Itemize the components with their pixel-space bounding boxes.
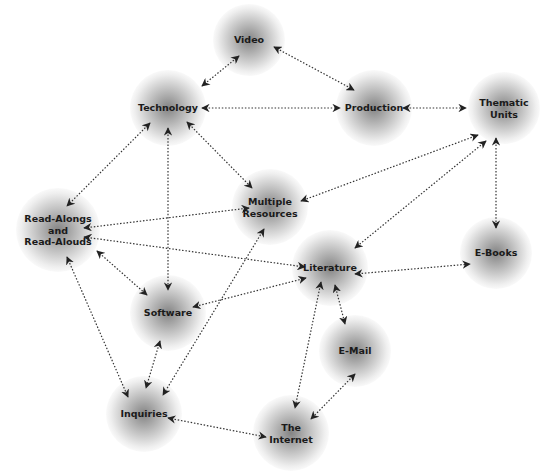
edge-arrow: [84, 237, 305, 267]
edge-arrow: [146, 341, 160, 388]
edge-arrow: [355, 264, 470, 274]
edge-arrow: [335, 285, 345, 324]
edge-arrow: [355, 141, 486, 248]
edge-arrow: [97, 251, 147, 295]
node-ebooks: E-Books: [475, 247, 518, 259]
node-inquiries: Inquiries: [120, 408, 167, 420]
node-thematic: ThematicUnits: [479, 97, 528, 120]
edge-arrow: [301, 135, 478, 201]
node-video: Video: [234, 34, 264, 46]
edge-arrow: [311, 374, 355, 419]
edge-arrow: [187, 122, 252, 188]
edge-arrow: [274, 47, 354, 90]
edge-arrow: [67, 257, 128, 397]
edge-arrow: [295, 282, 321, 408]
node-internet: TheInternet: [269, 422, 313, 445]
edge-arrow: [84, 208, 249, 228]
node-email: E-Mail: [339, 345, 372, 357]
node-literature: Literature: [303, 262, 357, 274]
node-software: Software: [144, 307, 192, 319]
edge-arrow: [202, 56, 239, 86]
node-multiple: MultipleResources: [242, 196, 297, 219]
node-technology: Technology: [138, 102, 198, 114]
edge-arrow: [193, 278, 306, 307]
node-production: Production: [345, 102, 403, 114]
node-readalongs: Read-AlongsandRead-Alouds: [24, 213, 91, 248]
edge-arrow: [168, 418, 266, 437]
edge-arrow: [67, 123, 150, 206]
